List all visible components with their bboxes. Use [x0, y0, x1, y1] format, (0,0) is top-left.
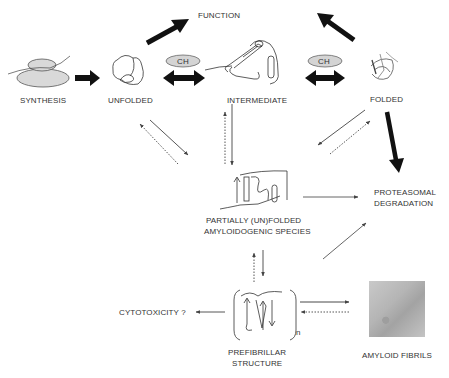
label-proteasomal-1: PROTEASOMAL	[374, 187, 436, 198]
label-prefibrillar-2: STRUCTURE	[232, 358, 282, 369]
label-partially-unfolded-2: AMYLOIDOGENIC SPECIES	[204, 226, 311, 237]
label-intermediate: INTERMEDIATE	[227, 95, 287, 106]
label-synthesis: SYNTHESIS	[20, 95, 66, 106]
amyloid-fibrils-micrograph	[369, 281, 425, 337]
label-partially-unfolded-1: PARTIALLY (UN)FOLDED	[206, 215, 301, 226]
prefibrillar-to-proteasomal-arrow	[323, 223, 366, 259]
folded-protein-icon	[371, 52, 398, 79]
folded-to-proteasomal-arrow	[387, 112, 404, 173]
unfolded-partially-arrows	[140, 120, 188, 164]
partially-prefibrillar-arrows	[254, 250, 263, 282]
partially-unfolded-protein-icon	[220, 171, 287, 209]
unfolded-to-function-arrow	[147, 19, 189, 43]
intermediate-protein-icon	[205, 40, 278, 84]
ribosome-icon	[8, 56, 70, 87]
intermediate-partially-arrows	[225, 104, 232, 165]
prefibrillar-fibrils-arrows	[300, 302, 349, 312]
folded-to-function-arrow	[317, 13, 354, 40]
protein-folding-diagram: FUNCTION SYNTHESIS UNFOLDED INTERMEDIATE…	[0, 0, 449, 378]
label-function: FUNCTION	[198, 10, 240, 21]
unfolded-protein-icon	[113, 55, 143, 84]
label-unfolded: UNFOLDED	[108, 95, 153, 106]
label-n-subscript: n	[296, 327, 301, 338]
label-prefibrillar-1: PREFIBRILLAR	[228, 347, 286, 358]
label-chaperone-2: CH	[318, 56, 330, 67]
prefibrillar-structure-icon	[234, 290, 296, 340]
label-proteasomal-2: DEGRADATION	[374, 198, 433, 209]
label-folded: FOLDED	[370, 94, 403, 105]
label-amyloid-fibrils: AMYLOID FIBRILS	[362, 350, 432, 361]
label-cytotoxicity: CYTOTOXICITY ?	[119, 307, 186, 318]
folded-partially-arrows	[318, 110, 370, 154]
synthesis-to-unfolded-arrow	[75, 70, 100, 86]
label-chaperone-1: CH	[177, 56, 189, 67]
